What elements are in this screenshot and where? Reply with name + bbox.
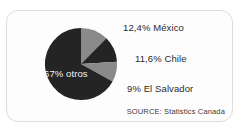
pie-label-chile: 11,6% Chile (135, 53, 187, 64)
chart-area: 12,4% México 11,6% Chile 9% El Salvador … (0, 0, 241, 130)
pie-label-otros: 67% otros (44, 68, 88, 79)
pie-chart (40, 23, 122, 105)
source-note: SOURCE: Statistics Canada (127, 107, 225, 116)
pie-label-el-salvador: 9% El Salvador (127, 83, 193, 94)
pie-chart-infographic: 12,4% México 11,6% Chile 9% El Salvador … (0, 0, 241, 130)
pie-label-mexico: 12,4% México (123, 22, 184, 33)
